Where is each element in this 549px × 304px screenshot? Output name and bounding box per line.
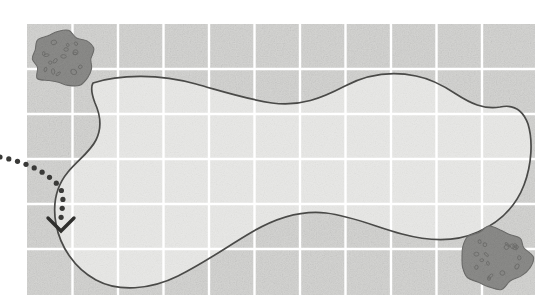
route-dot [60,197,65,202]
aerial-field-map [0,0,549,304]
route-dot [54,181,59,186]
route-dot [32,165,37,170]
route-dot [23,162,28,167]
route-dot [59,215,64,220]
route-dot [59,188,64,193]
map-content [27,24,535,295]
route-dot [60,206,65,211]
route-dot [40,170,45,175]
route-dot [47,175,52,180]
route-dot [6,156,11,161]
map-canvas [0,0,549,304]
route-dot [15,159,20,164]
